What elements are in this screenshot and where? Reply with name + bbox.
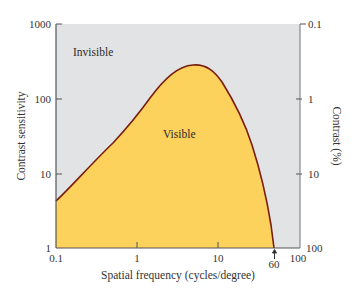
x-axis-title: Spatial frequency (cycles/degree) xyxy=(101,269,255,282)
y-right-tick-label-1: 1 xyxy=(308,93,314,105)
y-axis-title-right: Contrast (%) xyxy=(330,106,343,165)
visible-region-label: Visible xyxy=(163,128,196,140)
y-right-tick-label-100: 100 xyxy=(306,242,323,254)
y-right-tick-label-10: 10 xyxy=(308,168,320,180)
y-axis-title-left: Contrast sensitivity xyxy=(15,91,28,180)
x-tick-label-1: 1 xyxy=(134,252,140,264)
x-tick-label-100: 100 xyxy=(290,252,307,264)
x-tick-label-10: 10 xyxy=(213,252,225,264)
contrast-sensitivity-chart: 1000 100 10 1 0.1 1 10 100 0.1 1 10 100 … xyxy=(0,0,356,294)
y-right-tick-label-0.1: 0.1 xyxy=(308,18,322,30)
y-tick-label-10: 10 xyxy=(40,168,52,180)
x-tick-label-0.1: 0.1 xyxy=(49,252,63,264)
y-tick-label-100: 100 xyxy=(35,93,52,105)
x-arrow-label-60: 60 xyxy=(269,258,281,270)
y-tick-label-1000: 1000 xyxy=(29,18,52,30)
invisible-region-label: Invisible xyxy=(73,46,113,58)
